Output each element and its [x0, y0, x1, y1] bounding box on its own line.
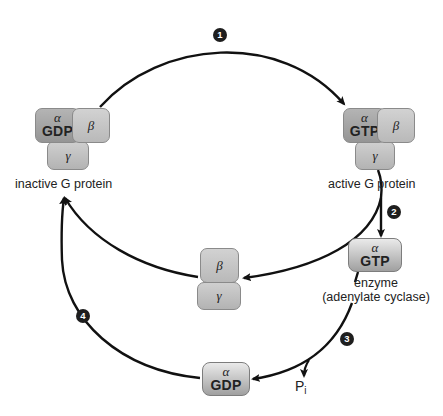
gamma-subunit: γ: [47, 141, 89, 170]
enzyme-label-line1: enzyme: [309, 276, 443, 290]
enzyme-label: enzyme (adenylate cyclase): [309, 276, 443, 304]
alpha-symbol: α: [223, 366, 230, 378]
alpha-gdp-subunit: α GDP: [202, 362, 250, 396]
gdp-label: GDP: [42, 124, 73, 139]
gamma-symbol: γ: [216, 290, 221, 302]
enzyme-label-line2: (adenylate cyclase): [309, 290, 443, 304]
gtp-label: GTP: [350, 124, 379, 139]
gamma-subunit: γ: [355, 141, 395, 170]
step-badge-4: 4: [76, 309, 90, 323]
beta-symbol: β: [393, 120, 399, 132]
gtp-label: GTP: [360, 254, 389, 269]
gamma-symbol: γ: [372, 150, 377, 162]
beta-symbol: β: [88, 120, 94, 132]
phosphate-label: Pi: [295, 378, 307, 396]
arrow-step-4-from-beta-gamma: [65, 198, 198, 277]
inactive-g-protein-label: inactive G protein: [15, 177, 112, 191]
phosphate-symbol: P: [295, 378, 304, 394]
gamma-subunit: γ: [197, 282, 241, 310]
cycle-arrows: [0, 0, 443, 416]
beta-subunit: β: [377, 108, 415, 143]
alpha-gtp-subunit: α GTP: [348, 238, 402, 272]
step-badge-1: 1: [213, 28, 227, 42]
arrow-step-1: [100, 53, 344, 107]
beta-subunit: β: [72, 108, 110, 143]
arrow-step-4-from-alpha-gdp: [62, 198, 200, 378]
gdp-label: GDP: [211, 378, 242, 393]
gamma-symbol: γ: [65, 150, 70, 162]
active-g-protein-label: active G protein: [328, 177, 416, 191]
beta-subunit: β: [200, 248, 239, 283]
phosphate-subscript: i: [304, 385, 306, 396]
step-badge-2: 2: [387, 205, 401, 219]
alpha-symbol: α: [372, 242, 379, 254]
step-badge-3: 3: [340, 332, 354, 346]
beta-symbol: β: [216, 260, 222, 272]
